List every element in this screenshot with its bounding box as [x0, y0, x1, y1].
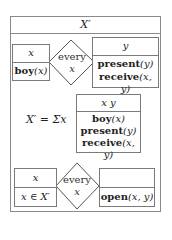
- sigma-equation: X′ = Σx: [26, 113, 67, 126]
- condition-boy: boy(x): [13, 65, 49, 77]
- condition-open: open(x, y): [100, 191, 154, 203]
- condition-receive: receive(x, y): [77, 137, 140, 161]
- referent-label: x: [15, 169, 56, 188]
- referent-label: y: [93, 38, 158, 56]
- quantifier-label-bottom: every x: [57, 174, 97, 197]
- sigma-box: x y boy(x) present(y) receive(x, y): [76, 94, 141, 153]
- quantifier-label-top: every x: [52, 51, 92, 74]
- condition-boy: boy(x): [77, 113, 140, 125]
- condition-present: present(y): [93, 58, 158, 70]
- restrictor-box-bottom: x x ∈ X′: [14, 168, 57, 207]
- scope-box-bottom: open(x, y): [99, 168, 155, 207]
- condition-member: x ∈ X′: [15, 191, 56, 203]
- restrictor-box-top: x boy(x): [12, 44, 50, 81]
- referent-label: [100, 169, 154, 188]
- condition-receive: receive(x, y): [93, 71, 158, 95]
- referent-label: x: [13, 45, 49, 63]
- condition-present: present(y): [77, 125, 140, 137]
- scope-box-top: y present(y) receive(x, y): [92, 37, 159, 88]
- referent-label: x y: [77, 95, 140, 112]
